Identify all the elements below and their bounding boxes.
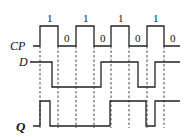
cp-high-label-4: 1 [153,12,159,24]
cp-low-label-3: 0 [135,32,141,44]
cp-high-label-2: 1 [83,12,89,24]
q-waveform [33,101,180,126]
cp-high-label-1: 1 [47,12,53,24]
d-label: D [18,55,28,69]
cp-waveform [33,26,180,46]
cp-low-label-4: 0 [170,32,176,44]
cp-high-label-3: 1 [118,12,124,24]
timing-diagram: CP 1 1 1 1 0 0 0 0 D Q [0,0,190,137]
cp-low-label-1: 0 [64,32,70,44]
d-waveform [30,62,180,87]
cp-label: CP [10,39,26,53]
cp-low-label-2: 0 [100,32,106,44]
q-label: Q [16,119,26,134]
